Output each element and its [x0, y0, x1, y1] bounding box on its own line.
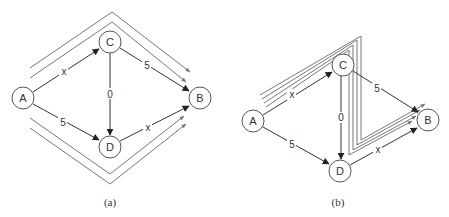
svg-text:B: B	[196, 92, 203, 104]
caption-b: (b)	[332, 196, 345, 209]
edge-label-c-d: 0	[338, 112, 344, 123]
edge-c-b	[353, 71, 418, 112]
panel-b: x 5 0 5 x A C D B (b)	[242, 36, 439, 209]
edge-d-b	[120, 106, 189, 141]
node-b: B	[417, 109, 439, 131]
edge-c-b	[120, 48, 189, 91]
edge-label-c-b: 5	[374, 83, 380, 94]
node-d: D	[99, 136, 121, 158]
node-c: C	[99, 31, 121, 53]
diagram-canvas: x 5 0 5 x A C D B (a)	[0, 0, 449, 217]
edge-label-a-c: x	[62, 66, 67, 77]
edge-label-c-d: 0	[107, 89, 113, 100]
caption-a: (a)	[104, 196, 117, 209]
edge-labels: x 5 0 5 x	[58, 60, 152, 134]
edge-label-a-c: x	[290, 89, 295, 100]
panel-a: x 5 0 5 x A C D B (a)	[12, 12, 211, 209]
svg-text:D: D	[106, 141, 114, 153]
edge-labels: x 5 0 5 x	[287, 83, 382, 156]
edge-label-d-b: x	[376, 144, 381, 155]
svg-text:B: B	[424, 114, 431, 126]
svg-text:C: C	[339, 59, 347, 71]
edge-label-d-b: x	[146, 122, 151, 133]
svg-text:A: A	[19, 92, 27, 104]
edge-label-a-d: 5	[289, 139, 295, 150]
node-d: D	[329, 160, 351, 182]
node-a: A	[242, 110, 264, 132]
svg-text:A: A	[249, 115, 257, 127]
svg-text:C: C	[106, 36, 114, 48]
edge-label-a-d: 5	[60, 117, 66, 128]
edge-label-c-b: 5	[144, 60, 150, 71]
edge-a-c	[263, 72, 332, 115]
svg-text:D: D	[336, 165, 344, 177]
node-b: B	[189, 87, 211, 109]
node-c: C	[332, 54, 354, 76]
node-a: A	[12, 87, 34, 109]
